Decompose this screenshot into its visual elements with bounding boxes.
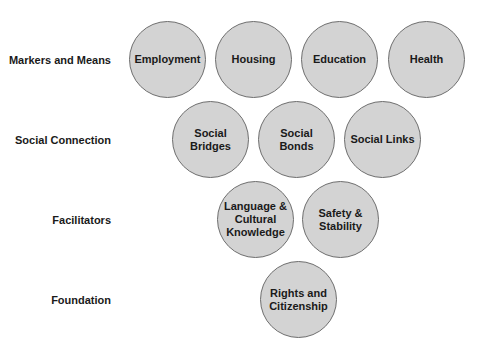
integration-framework-diagram: Markers and Means Social Connection Faci…: [0, 0, 478, 350]
node-rights-citizenship: Rights and Citizenship: [260, 261, 337, 338]
row-label-facilitators: Facilitators: [52, 214, 111, 226]
node-social-links: Social Links: [344, 101, 421, 178]
row-label-foundation: Foundation: [51, 294, 111, 306]
node-label: Education: [311, 53, 368, 66]
node-safety-stability: Safety & Stability: [302, 181, 379, 258]
node-label: Social Bonds: [277, 127, 315, 153]
row-label-markers-and-means: Markers and Means: [9, 54, 111, 66]
node-label: Safety & Stability: [316, 207, 364, 233]
node-health: Health: [388, 21, 465, 98]
node-label: Social Links: [348, 133, 416, 146]
node-language-cultural-knowledge: Language & Cultural Knowledge: [217, 181, 294, 258]
node-social-bridges: Social Bridges: [172, 101, 249, 178]
node-housing: Housing: [215, 21, 292, 98]
node-label: Housing: [230, 53, 278, 66]
node-label: Language & Cultural Knowledge: [222, 200, 289, 239]
node-social-bonds: Social Bonds: [258, 101, 335, 178]
node-label: Employment: [132, 53, 202, 66]
node-employment: Employment: [129, 21, 206, 98]
row-label-social-connection: Social Connection: [15, 134, 111, 146]
node-label: Rights and Citizenship: [267, 287, 330, 313]
node-label: Social Bridges: [188, 127, 233, 153]
node-education: Education: [301, 21, 378, 98]
node-label: Health: [408, 53, 446, 66]
